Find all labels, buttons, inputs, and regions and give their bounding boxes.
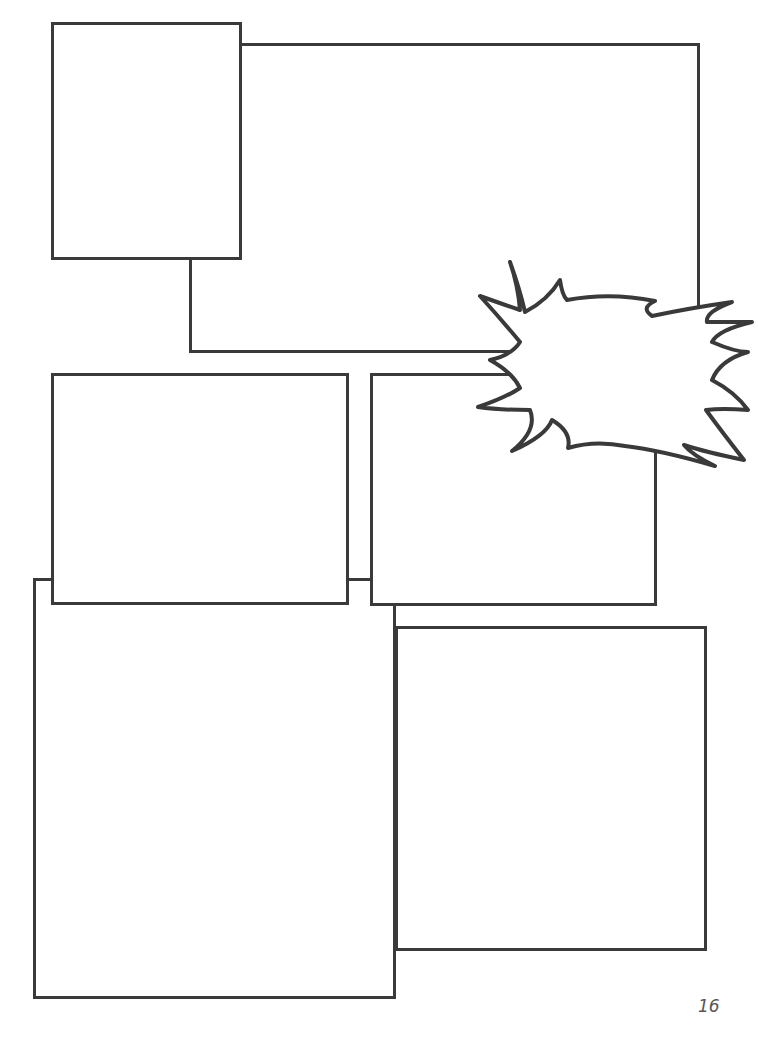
- panel-4: [370, 373, 657, 606]
- panel-6: [395, 626, 707, 951]
- page-number: 16: [698, 996, 720, 1016]
- panel-5: [33, 578, 396, 999]
- panel-3: [51, 373, 349, 605]
- panel-2: [189, 43, 700, 353]
- panel-1: [51, 22, 242, 260]
